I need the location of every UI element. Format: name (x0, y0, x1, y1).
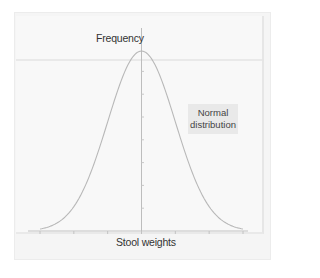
legend-line-2: distribution (188, 119, 238, 131)
x-axis-label: Stool weights (116, 236, 176, 248)
legend-annotation: Normal distribution (188, 104, 238, 134)
y-axis-label: Frequency (96, 32, 144, 44)
legend-line-1: Normal (188, 107, 238, 119)
